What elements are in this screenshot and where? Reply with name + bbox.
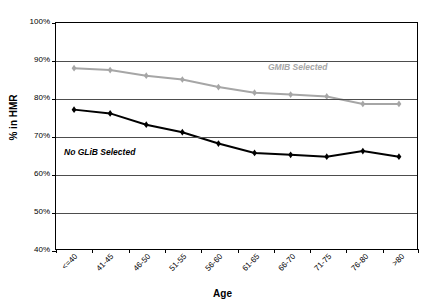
y-tick-mark bbox=[52, 137, 56, 138]
x-axis-tick-labels: <=4041-4546-5051-5556-6061-6566-7071-757… bbox=[55, 252, 418, 286]
data-point-marker bbox=[180, 76, 185, 83]
x-axis-title-text: Age bbox=[213, 288, 232, 299]
data-point-marker bbox=[252, 150, 257, 157]
data-point-marker bbox=[324, 153, 329, 160]
y-tick-mark bbox=[52, 175, 56, 176]
data-point-marker bbox=[360, 148, 365, 155]
data-point-marker bbox=[288, 151, 293, 158]
y-tick-label: 90% bbox=[16, 56, 50, 64]
y-tick-label: 50% bbox=[16, 208, 50, 216]
data-point-marker bbox=[397, 101, 402, 108]
gridline bbox=[56, 99, 417, 100]
data-point-marker bbox=[72, 106, 77, 113]
y-tick-label: 60% bbox=[16, 170, 50, 178]
y-tick-mark bbox=[52, 61, 56, 62]
series-layer bbox=[56, 23, 417, 249]
gridline bbox=[56, 213, 417, 214]
data-point-marker bbox=[144, 121, 149, 128]
data-point-marker bbox=[72, 65, 77, 72]
y-tick-label: 40% bbox=[16, 246, 50, 254]
y-tick-label: 100% bbox=[16, 18, 50, 26]
data-point-marker bbox=[108, 110, 113, 117]
gridline bbox=[56, 137, 417, 138]
y-tick-mark bbox=[52, 213, 56, 214]
data-point-marker bbox=[216, 140, 221, 147]
y-tick-label: 70% bbox=[16, 132, 50, 140]
y-axis-tick-labels: 100%90%80%70%60%50%40% bbox=[12, 0, 50, 307]
data-point-marker bbox=[288, 91, 293, 98]
gridline bbox=[56, 175, 417, 176]
y-tick-mark bbox=[52, 23, 56, 24]
data-point-marker bbox=[397, 153, 402, 160]
plot-area: GMIB Selected No GLiB Selected bbox=[55, 22, 418, 250]
y-tick-label: 80% bbox=[16, 94, 50, 102]
series-annotation-noglib: No GLiB Selected bbox=[64, 147, 135, 157]
data-point-marker bbox=[216, 84, 221, 91]
line-chart: % in HMR 100%90%80%70%60%50%40% GMIB Sel… bbox=[0, 0, 429, 307]
data-point-marker bbox=[108, 67, 113, 74]
data-point-marker bbox=[180, 129, 185, 136]
x-axis-title: Age bbox=[0, 288, 429, 299]
data-point-marker bbox=[252, 89, 257, 96]
x-tick-mark bbox=[418, 249, 419, 253]
y-tick-mark bbox=[52, 99, 56, 100]
data-point-marker bbox=[360, 101, 365, 108]
gridline bbox=[56, 61, 417, 62]
data-point-marker bbox=[144, 72, 149, 79]
series-annotation-gmib: GMIB Selected bbox=[268, 62, 328, 72]
